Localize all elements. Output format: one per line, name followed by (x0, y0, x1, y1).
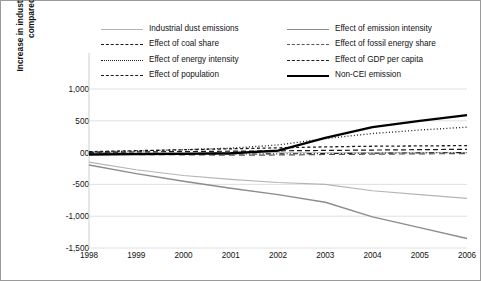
series-line (89, 165, 467, 238)
series-line (89, 162, 467, 198)
series-line (89, 127, 467, 152)
chart-frame: Industrial dust emissionsEffect of coal … (0, 0, 481, 281)
plot-area (1, 1, 481, 281)
plot-svg (1, 1, 481, 281)
